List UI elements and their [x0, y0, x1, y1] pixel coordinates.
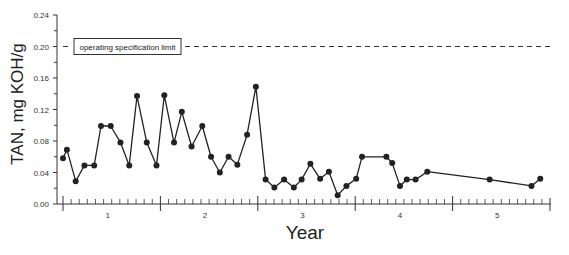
data-point: [389, 160, 395, 166]
y-tick-label: 0.00: [33, 200, 49, 209]
data-point: [271, 184, 277, 190]
data-point: [208, 154, 214, 160]
data-point: [353, 176, 359, 182]
data-point: [154, 162, 160, 168]
data-point: [98, 123, 104, 129]
data-point: [179, 109, 185, 115]
data-point: [281, 177, 287, 183]
data-point: [335, 192, 341, 198]
x-axis: 12345: [57, 196, 551, 220]
y-tick-label: 0.04: [33, 169, 49, 178]
y-axis: 0.000.040.080.120.160.200.24: [33, 11, 57, 209]
data-point: [171, 140, 177, 146]
y-tick-label: 0.24: [33, 11, 49, 20]
data-point: [343, 183, 349, 189]
data-point: [307, 161, 313, 167]
data-point: [234, 162, 240, 168]
data-point: [404, 177, 410, 183]
data-point: [383, 154, 389, 160]
data-point: [359, 154, 365, 160]
tan-line-chart: 0.000.040.080.120.160.200.24 12345 opera…: [0, 0, 569, 255]
data-point: [413, 177, 419, 183]
data-point: [108, 123, 114, 129]
data-point: [397, 183, 403, 189]
data-point: [199, 123, 205, 129]
data-point: [81, 162, 87, 168]
x-axis-title: Year: [286, 222, 325, 243]
data-point: [537, 176, 543, 182]
data-point: [144, 140, 150, 146]
data-point: [528, 183, 534, 189]
y-tick-label: 0.16: [33, 74, 49, 83]
data-point: [134, 93, 140, 99]
data-point: [117, 140, 123, 146]
data-point: [487, 177, 493, 183]
data-point: [226, 154, 232, 160]
data-point: [424, 169, 430, 175]
data-point: [263, 177, 269, 183]
data-point: [299, 177, 305, 183]
y-tick-label: 0.08: [33, 137, 49, 146]
y-tick-label: 0.12: [33, 106, 49, 115]
x-tick-label: 2: [203, 211, 208, 220]
x-tick-label: 1: [105, 211, 110, 220]
y-axis-title: TAN, mg KOH/g: [8, 43, 27, 165]
y-tick-label: 0.20: [33, 43, 49, 52]
data-point: [64, 147, 70, 153]
x-tick-label: 5: [495, 211, 500, 220]
data-point: [253, 84, 259, 90]
data-point: [244, 132, 250, 138]
x-tick-label: 4: [398, 211, 403, 220]
data-point: [326, 169, 332, 175]
data-point: [217, 170, 223, 176]
x-tick-label: 3: [300, 211, 305, 220]
spec-limit-line: operating specification limit: [63, 39, 551, 55]
data-point: [126, 162, 132, 168]
data-point: [91, 162, 97, 168]
data-point: [60, 155, 66, 161]
data-point: [189, 144, 195, 150]
data-point: [73, 178, 79, 184]
limit-label: operating specification limit: [79, 43, 176, 52]
data-point: [291, 184, 297, 190]
data-point: [317, 176, 323, 182]
tan-series: [60, 84, 543, 199]
data-point: [161, 92, 167, 98]
